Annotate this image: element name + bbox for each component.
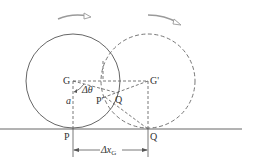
g-to-q-line [73,81,118,93]
dimension-arrowhead-right-icon [142,148,148,152]
label-a: a [66,96,71,106]
label-p-ground: P [64,132,70,142]
label-g: G [63,76,70,86]
gprime-to-pprime-line [102,81,148,98]
rolling-circle-diagram [0,0,256,166]
delta-x-text: Δx [101,144,111,155]
rotation-arrow-left-icon [58,13,91,19]
rotation-arrow-right-icon [148,15,181,25]
delta-theta-arrowhead-icon [74,89,77,93]
label-p-prime: P' [96,96,103,106]
label-delta-x: ΔxG [101,145,116,158]
pprime-to-q-line [105,97,148,129]
label-q-point: Q [115,95,122,105]
label-q-ground: Q [150,132,157,142]
dimension-arrowhead-left-icon [73,148,79,152]
delta-x-subscript: G [111,149,116,157]
label-delta-theta: Δθ [82,85,93,95]
label-g-prime: G' [150,76,159,86]
